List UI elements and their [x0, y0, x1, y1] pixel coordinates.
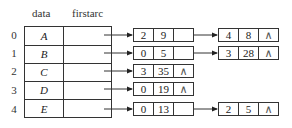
arc-info: 5	[154, 47, 174, 59]
null-icon: ∧	[259, 29, 278, 41]
arc-next	[174, 29, 193, 41]
arc-info: 19	[154, 83, 174, 95]
arc-adjvex: 3	[134, 65, 154, 77]
arc-info: 13	[154, 103, 174, 115]
arc-adjvex: 0	[134, 83, 154, 95]
arc-node: 3 28 ∧	[218, 46, 279, 60]
arc-adjvex: 2	[134, 29, 154, 41]
arc-adjvex: 4	[219, 29, 239, 41]
null-icon: ∧	[174, 83, 193, 95]
arc-info: 35	[154, 65, 174, 77]
arc-node: 4 8 ∧	[218, 28, 279, 42]
arc-info: 9	[154, 29, 174, 41]
arc-adjvex: 3	[219, 47, 239, 59]
arc-adjvex: 0	[134, 47, 154, 59]
null-icon: ∧	[259, 47, 278, 59]
arc-info: 28	[239, 47, 259, 59]
arc-info: 5	[239, 103, 259, 115]
arc-node: 3 35 ∧	[133, 64, 194, 78]
arc-node: 0 13	[133, 102, 194, 116]
arc-node: 0 5	[133, 46, 194, 60]
arc-node: 0 19 ∧	[133, 82, 194, 96]
null-icon: ∧	[259, 103, 278, 115]
arc-adjvex: 0	[134, 103, 154, 115]
arc-next	[174, 47, 193, 59]
arc-node: 2 5 ∧	[218, 102, 279, 116]
arc-next	[174, 103, 193, 115]
arc-info: 8	[239, 29, 259, 41]
null-icon: ∧	[174, 65, 193, 77]
arc-adjvex: 2	[219, 103, 239, 115]
arc-node: 2 9	[133, 28, 194, 42]
